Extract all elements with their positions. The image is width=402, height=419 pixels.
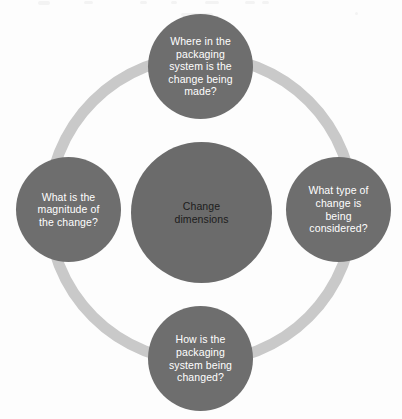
scan-artifact [355, 12, 358, 15]
node-how-is-system-changed: How is the packaging system being change… [148, 306, 253, 411]
center-node-label: Change dimensions [166, 200, 236, 226]
scan-artifact [84, 1, 93, 4]
change-dimensions-diagram: Change dimensions Where in the packaging… [0, 0, 402, 419]
node-what-type-of-change: What type of change is being considered? [286, 157, 391, 262]
node-where-in-packaging-system: Where in the packaging system is the cha… [148, 14, 253, 119]
center-node-change-dimensions: Change dimensions [131, 142, 272, 283]
node-magnitude-of-change: What is the magnitude of the change? [16, 157, 121, 262]
node-label-left: What is the magnitude of the change? [30, 191, 108, 229]
node-label-top: Where in the packaging system is the cha… [160, 35, 240, 98]
node-label-right: What type of change is being considered? [300, 184, 376, 234]
scan-artifact [38, 1, 50, 5]
scan-artifact [245, 1, 255, 4]
scan-artifact [140, 1, 147, 4]
scan-artifact [205, 1, 219, 4]
node-label-bottom: How is the packaging system being change… [161, 333, 240, 383]
scan-artifact [262, 1, 269, 4]
scan-artifact [171, 1, 177, 4]
